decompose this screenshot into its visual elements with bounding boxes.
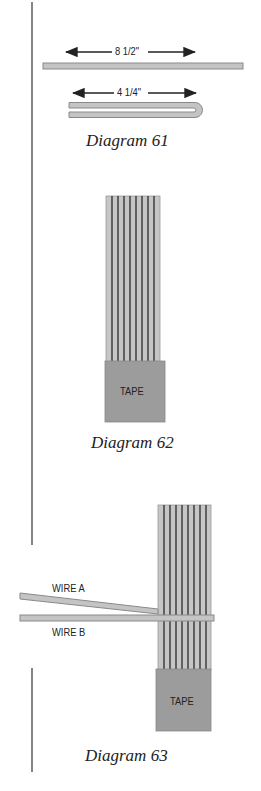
- folded-wire: [69, 103, 203, 118]
- wire-b: [20, 615, 214, 621]
- tape-label: TAPE: [120, 385, 144, 397]
- wire-a-label: WIRE A: [52, 582, 85, 594]
- straight-wire: [43, 63, 243, 69]
- tape-label: TAPE: [170, 695, 194, 707]
- wire-b-label: WIRE B: [52, 626, 85, 638]
- diagram-61: [43, 52, 243, 118]
- measure-full-label: 8 1/2": [115, 45, 139, 57]
- diagram-63-caption: Diagram 63: [85, 746, 168, 766]
- diagram-62-caption: Diagram 62: [91, 433, 174, 453]
- wire-bundle: [158, 505, 211, 670]
- wire-a: [20, 593, 158, 614]
- measure-half-label: 4 1/4": [117, 86, 141, 98]
- diagram-61-caption: Diagram 61: [86, 131, 169, 151]
- wire-bundle: [106, 196, 160, 362]
